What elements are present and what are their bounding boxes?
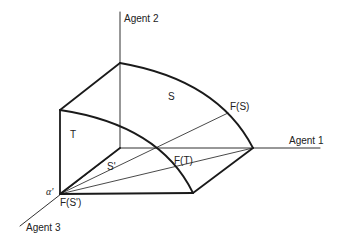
- point-fs-prime-label: F(S'): [60, 197, 81, 208]
- agent3-label: Agent 3: [26, 222, 61, 233]
- edge-top-left: [60, 63, 120, 110]
- edge-bottom: [60, 193, 193, 194]
- frontier-arc-t: [60, 110, 193, 193]
- alpha-prime-label: α': [46, 186, 54, 197]
- point-ft-label: F(T): [174, 155, 193, 166]
- region-s-label: S: [168, 91, 175, 102]
- region-t-label: T: [70, 129, 76, 140]
- agent2-label: Agent 2: [124, 13, 159, 24]
- agent1-label: Agent 1: [289, 135, 324, 146]
- bargaining-solution-diagram: Agent 2 Agent 1 Agent 3 S T S' F(S) F(T)…: [0, 0, 338, 243]
- ray-to-fs: [60, 113, 228, 194]
- region-s-prime-label: S': [107, 161, 116, 172]
- point-fs-label: F(S): [230, 101, 249, 112]
